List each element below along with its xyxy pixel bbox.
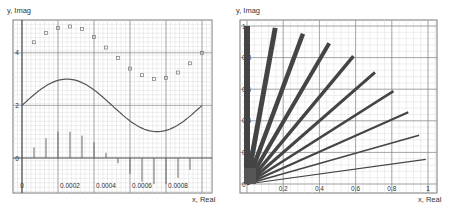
x-tick-label: 0.0002: [60, 182, 80, 189]
x-tick-label: 0.6: [351, 185, 360, 192]
x-tick-label: 0.0008: [168, 182, 188, 189]
y-tick-label: 4: [15, 49, 19, 56]
x-tick-label: 0: [20, 182, 24, 189]
x-tick-label: 1: [426, 185, 430, 192]
y-tick-label: 0: [15, 155, 19, 162]
left-ylabel: y, Imag: [7, 6, 31, 15]
right-ylabel: y, Imag: [236, 6, 260, 15]
right-chart: 0.20.40.60.8100.20.40.60.81: [240, 20, 437, 193]
x-tick-label: 0.0004: [96, 182, 116, 189]
x-tick-label: 0.8: [387, 185, 396, 192]
figure: 00.00020.00040.00060.0008024 0.20.40.60.…: [0, 0, 451, 213]
x-tick-label: 0.2: [279, 185, 288, 192]
x-tick-label: 0.0006: [132, 182, 152, 189]
left-chart: 00.00020.00040.00060.0008024: [13, 20, 212, 193]
left-xlabel: x, Real: [192, 195, 216, 204]
right-xlabel: x, Real: [418, 195, 442, 204]
origin-blob: [244, 168, 256, 184]
x-tick-label: 0.4: [315, 185, 324, 192]
y-tick-label: 2: [15, 102, 19, 109]
